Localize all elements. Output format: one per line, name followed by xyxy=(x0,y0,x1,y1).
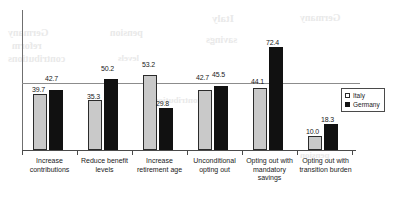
bar-germany xyxy=(269,47,283,150)
bar-italy xyxy=(308,136,322,150)
bar-italy xyxy=(33,94,47,150)
x-axis-label: Reduce benefit levels xyxy=(77,157,132,174)
legend-label-germany: Germany xyxy=(353,101,380,108)
legend-item-germany: Germany xyxy=(345,100,380,109)
x-axis-label: Increase contributions xyxy=(22,157,77,174)
bar-group: 35.3 50.2 xyxy=(88,55,122,150)
bar-value-germany: 18.3 xyxy=(321,116,334,123)
bar-value-germany: 29.8 xyxy=(156,100,169,107)
chart-legend: Italy Germany xyxy=(341,88,385,112)
bar-germany xyxy=(214,86,228,151)
bar-italy xyxy=(88,100,102,150)
bar-value-germany: 45.5 xyxy=(212,71,225,78)
bar-germany xyxy=(159,108,173,150)
bar-value-italy: 53.2 xyxy=(142,61,155,68)
bar-germany xyxy=(104,79,118,150)
bar-value-germany: 42.7 xyxy=(45,75,58,82)
bar-value-italy: 35.3 xyxy=(87,93,100,100)
x-axis-label: Opting out with transition burden xyxy=(297,157,354,174)
bar-chart: Germany pension reform contributions lev… xyxy=(0,0,408,205)
bar-italy xyxy=(143,75,157,150)
bar-group: 44.1 72.4 xyxy=(253,55,287,150)
bar-value-italy: 44.1 xyxy=(251,78,264,85)
bar-value-italy: 39.7 xyxy=(32,86,45,93)
bar-germany xyxy=(49,90,63,151)
bar-value-italy: 10.0 xyxy=(306,128,319,135)
legend-item-italy: Italy xyxy=(345,91,380,100)
legend-swatch-germany-icon xyxy=(345,102,350,107)
bar-italy xyxy=(253,88,267,151)
bar-group: 42.7 45.5 xyxy=(198,55,232,150)
bar-germany xyxy=(324,124,338,150)
legend-label-italy: Italy xyxy=(353,92,365,99)
x-axis-label: Unconditional opting out xyxy=(187,157,242,174)
bar-value-germany: 50.2 xyxy=(101,65,114,72)
bar-group: 39.7 42.7 xyxy=(33,55,67,150)
bar-value-italy: 42.7 xyxy=(196,74,209,81)
bar-group: 53.2 29.8 xyxy=(143,55,177,150)
bar-group: 10.0 18.3 xyxy=(308,55,342,150)
legend-swatch-italy-icon xyxy=(345,93,350,98)
x-axis-label: Increase retirement age xyxy=(132,157,187,174)
x-axis-label: Opting out with mandatory savings xyxy=(242,157,297,183)
bar-italy xyxy=(198,90,212,151)
bar-value-germany: 72.4 xyxy=(266,39,279,46)
